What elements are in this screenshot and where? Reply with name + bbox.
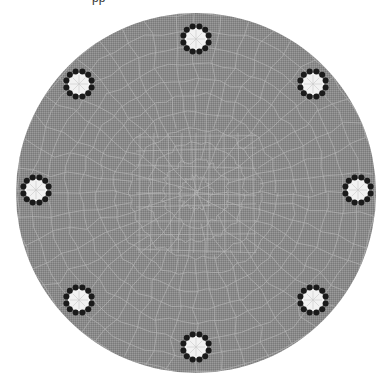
- electrode-dot: [297, 294, 303, 300]
- electrode-dot: [36, 200, 42, 206]
- electrode-dot: [180, 33, 186, 39]
- electrode-dot: [73, 284, 79, 290]
- electrode-dot: [346, 196, 352, 202]
- electrode-dot: [190, 331, 196, 337]
- electrode-dot: [73, 68, 79, 74]
- electrode-dot: [63, 294, 69, 300]
- electrode-e1: [180, 23, 211, 54]
- electrode-dot: [79, 284, 85, 290]
- electrode-dot: [206, 341, 212, 347]
- electrode-dot: [89, 294, 95, 300]
- electrode-dot: [342, 190, 348, 196]
- electrode-dot: [323, 300, 329, 306]
- electrode-dot: [190, 49, 196, 55]
- electrode-dot: [368, 190, 374, 196]
- electrode-dot: [346, 178, 352, 184]
- electrode-dot: [89, 84, 95, 90]
- electrode-e2: [297, 68, 328, 99]
- electrode-dot: [202, 27, 208, 33]
- electrode-dot: [297, 84, 303, 90]
- electrode-dot: [313, 94, 319, 100]
- electrode-dot: [184, 353, 190, 359]
- electrode-dot: [352, 200, 358, 206]
- electrode-dot: [301, 90, 307, 96]
- electrode-dot: [368, 184, 374, 190]
- electrode-dot: [297, 300, 303, 306]
- electrode-dot: [196, 23, 202, 29]
- electrode-dot: [190, 23, 196, 29]
- electrode-dot: [36, 174, 42, 180]
- circular-domain: [14, 12, 378, 375]
- electrode-dot: [319, 306, 325, 312]
- electrode-dot: [20, 190, 26, 196]
- electrode-dot: [89, 300, 95, 306]
- electrode-dot: [184, 45, 190, 51]
- electrode-dot: [313, 68, 319, 74]
- electrode-dot: [20, 184, 26, 190]
- electrode-dot: [85, 288, 91, 294]
- electrode-e7: [20, 174, 51, 205]
- electrode-dot: [85, 90, 91, 96]
- electrode-dot: [323, 84, 329, 90]
- electrode-dot: [42, 196, 48, 202]
- electrode-dot: [63, 78, 69, 84]
- electrode-dot: [358, 200, 364, 206]
- electrode-dot: [297, 78, 303, 84]
- electrode-dot: [196, 331, 202, 337]
- electrode-dot: [342, 184, 348, 190]
- electrode-dot: [313, 310, 319, 316]
- electrode-dot: [46, 184, 52, 190]
- electrode-dot: [307, 310, 313, 316]
- electrode-dot: [364, 196, 370, 202]
- electrode-e6: [63, 284, 94, 315]
- electrode-dot: [319, 288, 325, 294]
- electrode-dot: [67, 306, 73, 312]
- electrode-dot: [42, 178, 48, 184]
- electrode-dot: [319, 72, 325, 78]
- electrode-dot: [301, 288, 307, 294]
- electrode-e3: [342, 174, 373, 205]
- electrode-dot: [180, 347, 186, 353]
- electrode-dot: [313, 284, 319, 290]
- electrode-dot: [319, 90, 325, 96]
- electrode-dot: [67, 90, 73, 96]
- electrode-dot: [206, 33, 212, 39]
- electrode-dot: [358, 174, 364, 180]
- electrode-dot: [24, 178, 30, 184]
- electrode-dot: [184, 335, 190, 341]
- electrode-dot: [85, 72, 91, 78]
- electrode-dot: [79, 68, 85, 74]
- electrode-dot: [196, 357, 202, 363]
- electrode-dot: [301, 306, 307, 312]
- electrode-dot: [323, 78, 329, 84]
- electrode-e4: [297, 284, 328, 315]
- electrode-dot: [24, 196, 30, 202]
- electrode-dot: [67, 72, 73, 78]
- electrode-dot: [67, 288, 73, 294]
- electrode-dot: [190, 357, 196, 363]
- electrode-dot: [307, 68, 313, 74]
- electrode-dot: [202, 45, 208, 51]
- electrode-dot: [180, 341, 186, 347]
- electrode-dot: [307, 94, 313, 100]
- electrode-dot: [73, 94, 79, 100]
- electrode-dot: [196, 49, 202, 55]
- electrode-dot: [301, 72, 307, 78]
- electrode-dot: [206, 347, 212, 353]
- electrode-dot: [46, 190, 52, 196]
- electrode-dot: [206, 39, 212, 45]
- electrode-dot: [89, 78, 95, 84]
- electrode-dot: [63, 84, 69, 90]
- electrode-e5: [180, 331, 211, 362]
- electrode-dot: [73, 310, 79, 316]
- electrode-dot: [202, 335, 208, 341]
- electrode-dot: [63, 300, 69, 306]
- electrode-dot: [79, 310, 85, 316]
- electrode-dot: [30, 200, 36, 206]
- electrode-dot: [352, 174, 358, 180]
- electrode-dot: [30, 174, 36, 180]
- electrode-e8: [63, 68, 94, 99]
- electrode-dot: [323, 294, 329, 300]
- electrode-dot: [307, 284, 313, 290]
- electrode-dot: [202, 353, 208, 359]
